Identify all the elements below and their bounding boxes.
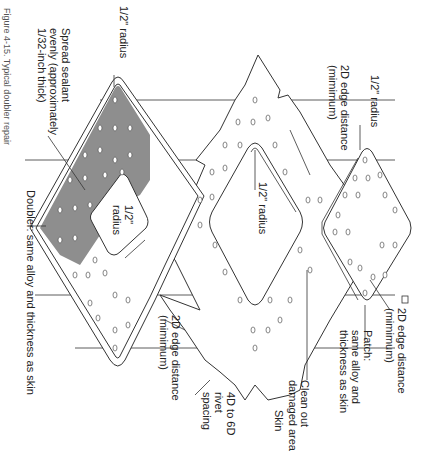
- label-rivet-spacing-2: rivet: [213, 392, 225, 413]
- rivet-icon: [402, 296, 408, 303]
- label-patch-2: same alloy and: [350, 330, 362, 404]
- figure-caption: Figure 4-15. Typical doubler repair: [2, 8, 12, 145]
- label-edge-distance-doubler-1: 2D edge distance: [170, 315, 182, 401]
- doubler-repair-diagram: Figure 4-15. Typical doubler repair: [0, 0, 423, 460]
- label-radius-patch: 1/2" radius: [369, 75, 381, 128]
- label-edge-distance-center-2: (mimimum): [327, 65, 339, 120]
- label-patch-1: Patch:: [362, 330, 374, 361]
- label-radius-inner-doubler-2: radius: [111, 205, 123, 235]
- label-radius-center: 1/2" radius: [257, 182, 269, 235]
- label-edge-distance-center-1: 2D edge distance: [339, 65, 351, 151]
- label-radius-top-left: 1/2" radius: [118, 6, 130, 59]
- label-edge-distance-patch-1: 2D edge distance: [396, 308, 408, 394]
- label-doubler: Doubler: same alloy and thickness as ski…: [25, 190, 37, 395]
- label-edge-distance-doubler-2: (mimimum): [158, 315, 170, 370]
- label-clean-out-1: Clean out: [299, 380, 311, 427]
- label-rivet-spacing-3: spacing: [201, 392, 213, 430]
- label-patch-3: thickness as skin: [338, 330, 350, 413]
- label-skin: Skin: [273, 410, 285, 431]
- label-rivet-spacing-1: 4D to 6D: [225, 392, 237, 435]
- label-radius-inner-doubler-1: 1/2": [123, 205, 135, 224]
- label-clean-out-2: damaged area: [287, 380, 299, 452]
- label-sealant-line2: evenly (approximately: [48, 28, 60, 135]
- label-sealant-line1: Spread sealant: [60, 28, 72, 102]
- label-edge-distance-patch-2: (mimimum): [384, 308, 396, 363]
- label-sealant-line3: 1/32-inch thick): [36, 28, 48, 103]
